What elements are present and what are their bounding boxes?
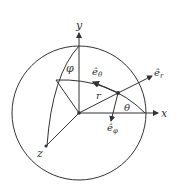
e-r-label: êr bbox=[154, 67, 164, 80]
y-axis-label: y bbox=[75, 19, 83, 32]
projection-line bbox=[56, 80, 79, 113]
e-theta-label: êθ bbox=[92, 66, 103, 79]
z-axis-label: z bbox=[36, 147, 43, 160]
e-phi-label: êφ bbox=[107, 122, 118, 135]
e-phi-vector bbox=[111, 93, 118, 121]
spherical-coordinates-diagram: y x z φ θ r êr êθ êφ bbox=[0, 0, 186, 193]
r-label: r bbox=[96, 90, 102, 101]
origin-point bbox=[77, 111, 81, 115]
x-axis-label: x bbox=[161, 107, 168, 120]
meridian-arc bbox=[47, 46, 79, 146]
phi-label: φ bbox=[66, 62, 74, 75]
point-p bbox=[116, 91, 120, 95]
z-axis bbox=[46, 113, 79, 146]
theta-label: θ bbox=[124, 102, 130, 113]
e-r-vector bbox=[118, 76, 152, 93]
